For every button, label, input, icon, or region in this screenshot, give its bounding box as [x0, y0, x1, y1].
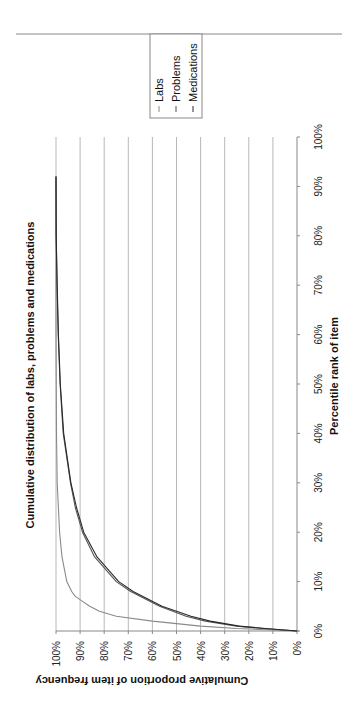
x-axis-tick-labels: 0%10%20%30%40%50%60%70%80%90%100% [313, 124, 324, 638]
legend-item-labs: Labs [153, 78, 165, 102]
x-tick-label: 100% [313, 124, 324, 150]
legend: LabsProblemsMedications [150, 34, 202, 118]
y-axis-tick-labels: 0%10%20%30%40%50%60%70%80%90%100% [51, 641, 303, 667]
cumulative-distribution-chart: 0%10%20%30%40%50%60%70%80%90%100% 0%10%2… [0, 0, 359, 723]
axes [56, 137, 300, 634]
y-tick-label: 0% [292, 641, 303, 656]
y-tick-label: 80% [99, 641, 110, 661]
x-tick-label: 70% [313, 275, 324, 295]
x-tick-label: 30% [313, 473, 324, 493]
y-tick-label: 40% [196, 641, 207, 661]
y-tick-label: 30% [220, 641, 231, 661]
gridlines [56, 137, 273, 631]
y-tick-label: 70% [123, 641, 134, 661]
y-axis-title: Cumulative proportion of item frequency [35, 675, 249, 687]
legend-item-problems: Problems [170, 55, 182, 102]
y-tick-label: 10% [268, 641, 279, 661]
x-tick-label: 40% [313, 423, 324, 443]
y-tick-label: 60% [147, 641, 158, 661]
chart-title: Cumulative distribution of labs, problem… [24, 222, 36, 529]
x-tick-label: 90% [313, 176, 324, 196]
x-tick-label: 10% [313, 571, 324, 591]
x-tick-label: 60% [313, 324, 324, 344]
y-tick-label: 90% [75, 641, 86, 661]
x-tick-label: 50% [313, 374, 324, 394]
x-axis-title: Percentile rank of item [328, 317, 340, 435]
x-tick-label: 20% [313, 522, 324, 542]
y-tick-label: 100% [51, 641, 62, 667]
legend-item-medications: Medications [187, 43, 199, 102]
y-tick-label: 20% [244, 641, 255, 661]
y-tick-label: 50% [172, 641, 183, 661]
x-tick-label: 80% [313, 226, 324, 246]
x-tick-label: 0% [313, 624, 324, 639]
